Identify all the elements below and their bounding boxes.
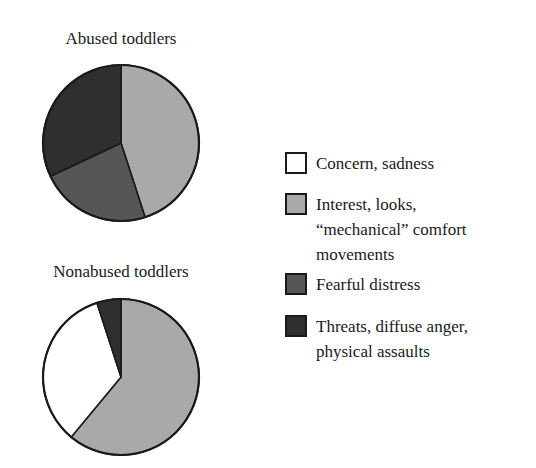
threats-swatch-icon	[285, 315, 307, 337]
legend-label-fearful: Fearful distress	[316, 272, 531, 297]
nonabused-toddlers-pie-chart	[41, 297, 201, 457]
nonabused-toddlers-title: Nonabused toddlers	[21, 262, 221, 282]
abused-toddlers-title: Abused toddlers	[21, 29, 221, 49]
legend-label-threats: Threats, diffuse anger, physical assault…	[316, 314, 531, 364]
abused-toddlers-pie-chart	[41, 63, 201, 223]
interest-swatch-icon	[285, 193, 307, 215]
legend-label-interest: Interest, looks, “mechanical” comfort mo…	[316, 192, 531, 267]
fearful-swatch-icon	[285, 273, 307, 295]
concern-swatch-icon	[285, 152, 307, 174]
legend-label-concern: Concern, sadness	[316, 151, 531, 176]
